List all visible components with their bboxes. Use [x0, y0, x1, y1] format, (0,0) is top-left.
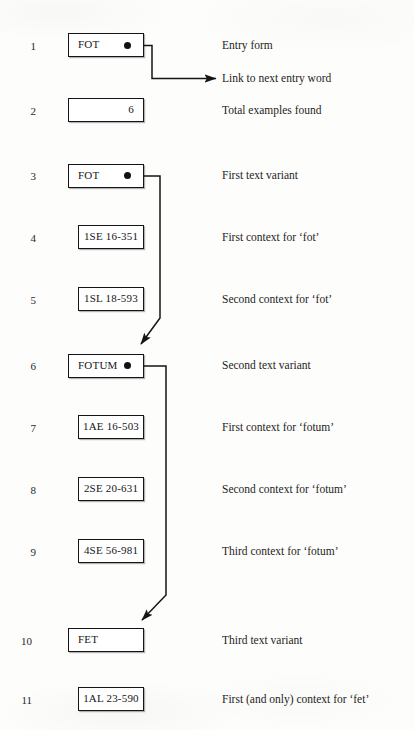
node-box-9-context[interactable]: 4SE 56-981 — [78, 539, 144, 563]
diagram-page: 1 FOT Entry form Link to next entry word… — [0, 0, 414, 730]
node-box-3-first-text-variant[interactable]: FOT — [68, 164, 144, 188]
node-label-6: FOTUM — [69, 355, 143, 377]
row-number-10: 10 — [8, 635, 32, 647]
description-2: Total examples found — [222, 104, 321, 117]
node-label-9: 4SE 56-981 — [79, 540, 143, 562]
node-box-6-second-text-variant[interactable]: FOTUM — [68, 354, 144, 378]
row-number-11: 11 — [8, 694, 32, 706]
node-label-7: 1AE 16-503 — [79, 416, 143, 438]
row-number-5: 5 — [12, 294, 36, 306]
node-box-7-context[interactable]: 1AE 16-503 — [78, 415, 144, 439]
link-dot-icon-row1[interactable] — [124, 42, 131, 49]
node-label-3: FOT — [69, 165, 143, 187]
node-box-11-context[interactable]: 1AL 23-590 — [78, 687, 144, 711]
description-10: Third text variant — [222, 634, 302, 647]
row-number-8: 8 — [12, 484, 36, 496]
node-label-11: 1AL 23-590 — [79, 688, 143, 710]
node-label-10: FET — [69, 629, 143, 651]
row-number-1: 1 — [12, 40, 36, 52]
description-11: First (and only) context for ‘fet’ — [222, 693, 369, 706]
node-box-8-context[interactable]: 2SE 20-631 — [78, 477, 144, 501]
description-3: First text variant — [222, 169, 298, 182]
node-label-5: 1SL 18-593 — [79, 288, 143, 310]
row-number-6: 6 — [12, 360, 36, 372]
description-7: First context for ‘fotum’ — [222, 421, 334, 434]
link-dot-icon-row6[interactable] — [124, 362, 131, 369]
node-box-10-third-text-variant[interactable]: FET — [68, 628, 144, 652]
row-number-3: 3 — [12, 170, 36, 182]
node-label-2: 6 — [69, 99, 143, 121]
node-box-5-context[interactable]: 1SL 18-593 — [78, 287, 144, 311]
description-4: First context for ‘fot’ — [222, 231, 319, 244]
connector-layer — [0, 0, 414, 730]
link-dot-icon-row3[interactable] — [124, 172, 131, 179]
node-box-4-context[interactable]: 1SE 16-351 — [78, 225, 144, 249]
row-number-7: 7 — [12, 422, 36, 434]
row-number-4: 4 — [12, 232, 36, 244]
description-9: Third context for ‘fotum’ — [222, 545, 339, 558]
row-number-2: 2 — [12, 105, 36, 117]
description-link-to-next-entry: Link to next entry word — [222, 72, 331, 85]
description-8: Second context for ‘fotum’ — [222, 483, 347, 496]
row-number-9: 9 — [12, 546, 36, 558]
node-label-8: 2SE 20-631 — [79, 478, 143, 500]
description-1: Entry form — [222, 39, 273, 52]
node-label-1: FOT — [69, 34, 143, 56]
description-6: Second text variant — [222, 359, 311, 372]
node-box-1-entry-form[interactable]: FOT — [68, 33, 144, 57]
description-5: Second context for ‘fot’ — [222, 293, 332, 306]
connector-row3-to-row6 — [131, 176, 160, 344]
node-box-2-total-examples[interactable]: 6 — [68, 98, 144, 122]
node-label-4: 1SE 16-351 — [79, 226, 143, 248]
